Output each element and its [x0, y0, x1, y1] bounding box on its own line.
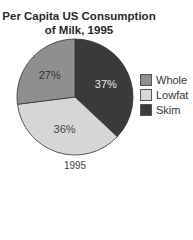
legend-item-lowfat: Lowfat — [140, 87, 188, 102]
legend-swatch-skim — [140, 104, 152, 116]
legend-label-skim: Skim — [156, 104, 180, 116]
legend-item-whole: Whole — [140, 72, 188, 87]
legend-swatch-whole — [140, 74, 152, 86]
legend: Whole Lowfat Skim — [140, 72, 188, 117]
legend-swatch-lowfat — [140, 89, 152, 101]
legend-item-skim: Skim — [140, 102, 188, 117]
legend-label-lowfat: Lowfat — [156, 89, 188, 101]
x-axis-label: 1995 — [55, 160, 95, 171]
legend-label-whole: Whole — [156, 74, 187, 86]
pie-label-whole: 27% — [39, 69, 61, 81]
pie-label-skim: 37% — [95, 78, 117, 90]
pie-label-lowfat: 36% — [54, 123, 76, 135]
